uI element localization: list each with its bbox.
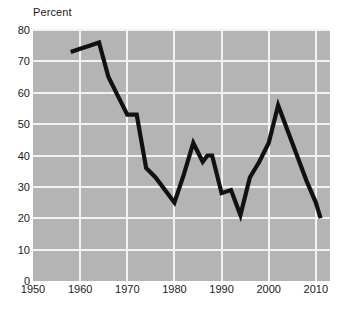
y-axis-tick-label: 10 — [2, 244, 30, 256]
x-axis-tick-label: 2000 — [256, 283, 280, 295]
data-line-percent — [71, 43, 321, 219]
y-axis-tick-label: 60 — [2, 87, 30, 99]
y-axis-tick-label: 50 — [2, 118, 30, 130]
x-axis-tick-label: 1970 — [115, 283, 139, 295]
x-axis-tick-label: 1950 — [21, 283, 45, 295]
plot-area — [33, 30, 330, 281]
y-axis-ticks: 80706050403020100 — [0, 30, 30, 281]
x-axis-tick-label: 1960 — [68, 283, 92, 295]
x-axis-tick-label: 1990 — [209, 283, 233, 295]
y-axis-tick-label: 20 — [2, 212, 30, 224]
y-axis-tick-label: 30 — [2, 181, 30, 193]
x-axis-tick-label: 2010 — [304, 283, 328, 295]
y-axis-tick-label: 70 — [2, 55, 30, 67]
y-axis-tick-label: 40 — [2, 150, 30, 162]
y-axis-tick-label: 80 — [2, 24, 30, 36]
y-axis-title: Percent — [33, 6, 72, 18]
line-chart: Percent 80706050403020100 19501960197019… — [0, 0, 343, 309]
x-axis-ticks: 1950196019701980199020002010 — [0, 283, 343, 303]
series-layer — [33, 30, 330, 281]
x-axis-tick-label: 1980 — [162, 283, 186, 295]
